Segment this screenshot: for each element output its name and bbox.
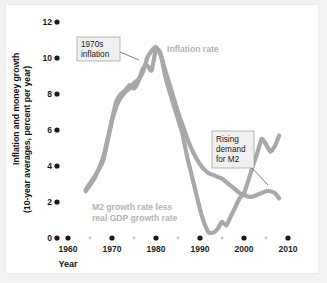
series-label-m2-growth-line2: real GDP growth rate <box>92 213 178 223</box>
x-tick-label-2000: 2000 <box>235 244 254 254</box>
annotation-rising-demand-m2-line3: for M2 <box>216 155 240 164</box>
y-axis: 12 10 8 6 4 2 0 <box>43 17 60 243</box>
x-tick-label-1980: 1980 <box>147 244 166 254</box>
x-tick-label-1960: 1960 <box>59 244 78 254</box>
annotation-rising-demand-m2-line1: Rising <box>216 135 239 144</box>
x-tick-dot-1995 <box>221 237 224 240</box>
series-label-inflation-rate: Inflation rate <box>167 44 219 54</box>
x-tick-dot-2005 <box>265 237 268 240</box>
x-axis: 1960 1970 1980 1990 2000 2010 <box>59 235 298 254</box>
y-tick-label-0: 0 <box>47 233 52 243</box>
y-axis-title: Inflation and money growth (10-year aver… <box>11 53 32 213</box>
annotation-1970s-inflation-line2: inflation <box>81 50 110 59</box>
y-axis-title-line1: Inflation and money growth <box>11 53 21 165</box>
x-axis-title: Year <box>58 259 78 269</box>
y-tick-dot-12 <box>54 19 59 24</box>
y-tick-label-8: 8 <box>47 89 52 99</box>
y-tick-label-10: 10 <box>43 53 53 63</box>
x-tick-dot-1970 <box>109 235 114 240</box>
x-tick-label-2010: 2010 <box>279 244 298 254</box>
x-tick-dot-1990 <box>197 235 202 240</box>
y-tick-dot-10 <box>54 55 59 60</box>
annotation-1970s-inflation: 1970s inflation <box>77 37 139 61</box>
series-label-m2-growth: M2 growth rate less real GDP growth rate <box>92 202 178 223</box>
x-tick-dot-1960 <box>65 235 70 240</box>
y-tick-dot-2 <box>54 199 59 204</box>
series-label-m2-growth-line1: M2 growth rate less <box>92 202 172 212</box>
y-tick-dot-4 <box>54 163 59 168</box>
annotation-leader-rising-demand-m2 <box>252 168 268 185</box>
y-tick-dot-0 <box>54 235 59 240</box>
x-tick-dot-1980 <box>153 235 158 240</box>
x-tick-dot-1965 <box>89 237 92 240</box>
x-tick-dot-2000 <box>241 235 246 240</box>
chart-figure: 12 10 8 6 4 2 0 Inflation and money grow… <box>0 0 327 283</box>
y-tick-label-12: 12 <box>43 17 53 27</box>
y-tick-dot-6 <box>54 127 59 132</box>
y-tick-label-6: 6 <box>47 125 52 135</box>
x-tick-label-1970: 1970 <box>103 244 122 254</box>
chart-canvas: 12 10 8 6 4 2 0 Inflation and money grow… <box>0 0 327 283</box>
annotation-1970s-inflation-line1: 1970s <box>81 40 103 49</box>
y-tick-label-2: 2 <box>47 197 52 207</box>
x-tick-dot-1975 <box>133 237 136 240</box>
x-tick-dot-1985 <box>177 237 180 240</box>
annotation-leader-1970s-inflation <box>120 52 139 60</box>
x-tick-label-1990: 1990 <box>191 244 210 254</box>
y-axis-title-line2: (10-year averages, percent per year) <box>22 66 32 213</box>
x-tick-dot-2010 <box>285 235 290 240</box>
annotation-rising-demand-m2-line2: demand <box>216 145 246 154</box>
y-tick-dot-8 <box>54 91 59 96</box>
y-tick-label-4: 4 <box>47 161 52 171</box>
